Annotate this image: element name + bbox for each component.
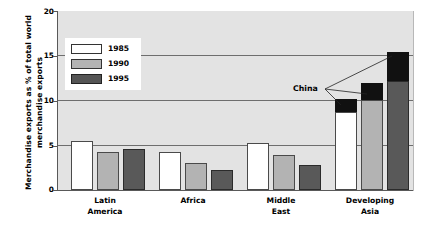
x-category-africa: Africa: [163, 196, 223, 207]
x-category-developing-asia-line1: Developing: [346, 196, 394, 205]
legend-swatch-1985: [71, 44, 102, 54]
y-tick-label-0: 0: [28, 185, 54, 194]
bar-africa-1985: [159, 152, 181, 190]
x-category-latin-america-line1: Latin: [94, 196, 116, 205]
china-segment-1990: [361, 83, 383, 100]
bar-chart: Merchandise exports as % of total world …: [0, 0, 423, 241]
legend-swatch-1995: [71, 74, 102, 84]
china-annotation-label: China: [293, 84, 318, 93]
legend-item-1995: 1995: [71, 74, 137, 85]
plot-right-border: [413, 11, 414, 191]
legend-label-1995: 1995: [108, 74, 129, 84]
legend-swatch-1990: [71, 59, 102, 69]
bar-middle-east-1990: [273, 155, 295, 190]
x-category-latin-america-line2: America: [88, 207, 123, 216]
legend-label-1990: 1990: [108, 59, 129, 69]
legend-item-1990: 1990: [71, 59, 137, 70]
y-tick-label-20: 20: [28, 7, 54, 16]
y-tick-label-10: 10: [28, 96, 54, 105]
bar-developing-asia-1995: [387, 81, 409, 190]
bar-latin-america-1990: [97, 152, 119, 190]
x-category-developing-asia-line2: Asia: [361, 207, 379, 216]
bar-developing-asia-1985: [335, 112, 357, 190]
bar-middle-east-1995: [299, 165, 321, 190]
y-tick-label-5: 5: [28, 141, 54, 150]
x-category-developing-asia: Developing Asia: [337, 196, 403, 217]
x-category-middle-east-line1: Middle: [267, 196, 296, 205]
bar-developing-asia-1990: [361, 100, 383, 190]
x-category-middle-east: Middle East: [251, 196, 311, 217]
legend: 1985 1990 1995: [65, 38, 141, 90]
legend-label-1985: 1985: [108, 44, 129, 54]
bar-latin-america-1995: [123, 149, 145, 190]
bar-middle-east-1985: [247, 143, 269, 190]
bar-africa-1995: [211, 170, 233, 190]
bar-latin-america-1985: [71, 141, 93, 190]
china-segment-1995: [387, 52, 409, 81]
x-category-middle-east-line2: East: [272, 207, 290, 216]
x-category-africa-line1: Africa: [180, 196, 205, 205]
y-tick-label-15: 15: [28, 51, 54, 60]
legend-item-1985: 1985: [71, 44, 137, 55]
x-category-latin-america: Latin America: [75, 196, 135, 217]
bar-africa-1990: [185, 163, 207, 190]
china-segment-1985: [335, 99, 357, 112]
